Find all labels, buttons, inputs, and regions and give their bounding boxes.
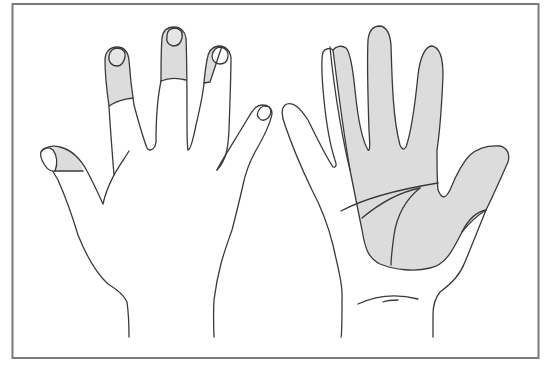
left-ring-nail <box>212 47 228 64</box>
hand-diagram <box>0 0 544 369</box>
left-index-nail <box>109 48 125 66</box>
diagram-canvas <box>0 0 544 369</box>
left-middle-nail <box>167 28 183 46</box>
